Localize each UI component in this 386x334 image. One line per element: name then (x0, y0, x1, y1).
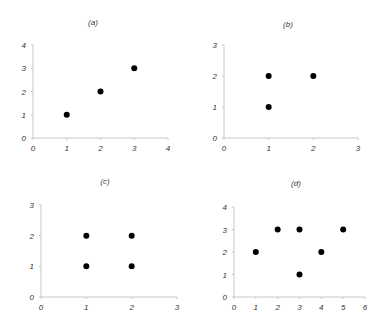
data-point (340, 227, 346, 233)
data-point (253, 249, 259, 255)
y-tick-label: 0 (223, 293, 228, 302)
y-tick-label: 3 (22, 64, 27, 73)
y-tick-label: 3 (223, 226, 228, 235)
x-tick-label: 1 (84, 303, 88, 312)
x-tick-label: 1 (266, 144, 270, 153)
y-tick-label: 1 (223, 271, 227, 280)
data-point (275, 227, 281, 233)
panel-d: (d)012345601234 (222, 179, 368, 312)
panel-title: (d) (291, 179, 301, 188)
y-tick-label: 1 (22, 111, 26, 120)
x-tick-label: 3 (297, 303, 302, 312)
x-tick-label: 2 (310, 144, 316, 153)
data-point (266, 104, 272, 110)
x-tick-label: 5 (341, 303, 346, 312)
y-tick-label: 2 (212, 72, 218, 81)
y-tick-label: 4 (223, 203, 228, 212)
y-tick-label: 3 (30, 201, 35, 210)
data-point (131, 65, 137, 71)
y-tick-label: 0 (22, 134, 27, 143)
figure-canvas: (a)0123401234(b)01230123(c)01230123(d)01… (0, 0, 386, 334)
x-tick-label: 4 (166, 144, 171, 153)
panel-b: (b)01230123 (212, 20, 361, 153)
x-tick-label: 2 (128, 303, 134, 312)
data-point (310, 73, 316, 79)
panel-a: (a)0123401234 (21, 18, 171, 153)
panel-title: (c) (100, 177, 110, 186)
x-tick-label: 0 (232, 303, 237, 312)
x-tick-label: 0 (222, 144, 227, 153)
data-point (266, 73, 272, 79)
data-point (64, 112, 70, 118)
x-tick-label: 1 (254, 303, 258, 312)
y-tick-label: 2 (21, 88, 27, 97)
data-point (318, 249, 324, 255)
x-tick-label: 2 (274, 303, 280, 312)
x-tick-label: 0 (31, 144, 36, 153)
x-tick-label: 1 (65, 144, 69, 153)
x-tick-label: 3 (132, 144, 137, 153)
y-tick-label: 0 (213, 134, 218, 143)
y-tick-label: 3 (213, 41, 218, 50)
x-tick-label: 3 (175, 303, 180, 312)
x-tick-label: 3 (356, 144, 361, 153)
panel-c: (c)01230123 (29, 177, 180, 312)
y-tick-label: 1 (30, 262, 34, 271)
panel-title: (b) (283, 20, 293, 29)
data-point (129, 263, 135, 269)
panel-title: (a) (88, 18, 98, 27)
x-tick-label: 4 (319, 303, 324, 312)
data-point (297, 272, 303, 278)
x-tick-label: 2 (97, 144, 103, 153)
y-tick-label: 2 (222, 248, 228, 257)
y-tick-label: 0 (30, 293, 35, 302)
data-point (297, 227, 303, 233)
x-tick-label: 0 (39, 303, 44, 312)
data-point (83, 233, 89, 239)
data-point (129, 233, 135, 239)
y-tick-label: 4 (22, 41, 27, 50)
y-tick-label: 1 (213, 103, 217, 112)
scatter-plot-grid: (a)0123401234(b)01230123(c)01230123(d)01… (0, 0, 386, 334)
x-tick-label: 6 (363, 303, 368, 312)
data-point (98, 89, 104, 95)
y-tick-label: 2 (29, 232, 35, 241)
data-point (83, 263, 89, 269)
